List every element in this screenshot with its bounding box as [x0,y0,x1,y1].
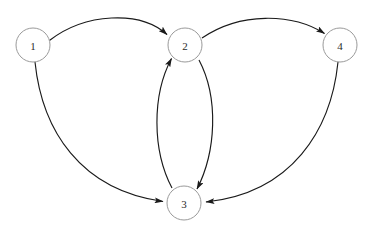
edge-4-to-3[interactable] [206,62,338,202]
edge-1-to-3[interactable] [35,62,163,202]
node-2[interactable]: 2 [168,28,202,62]
node-1[interactable]: 1 [16,28,50,62]
node-2-label: 2 [182,40,188,52]
graph-canvas: 1 2 3 4 [0,0,370,232]
node-4-label: 4 [337,40,343,52]
edge-2-to-4[interactable] [202,18,325,38]
node-1-label: 1 [30,40,36,52]
edge-2-to-3[interactable] [197,60,213,189]
directed-graph-diagram: 1 2 3 4 [0,0,370,232]
node-3[interactable]: 3 [167,186,201,220]
edge-1-to-2[interactable] [49,18,167,41]
nodes-layer: 1 2 3 4 [16,28,357,220]
edge-3-to-2[interactable] [157,59,172,189]
node-3-label: 3 [181,198,187,210]
node-4[interactable]: 4 [323,28,357,62]
